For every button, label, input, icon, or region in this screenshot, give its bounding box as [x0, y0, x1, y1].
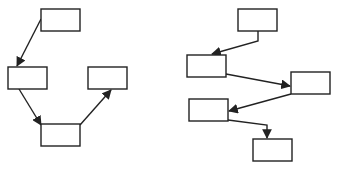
- box-rect: [88, 67, 127, 89]
- box-rect: [238, 9, 277, 31]
- box-node-I: [253, 139, 292, 161]
- box-node-B: [8, 67, 47, 89]
- box-node-A: [41, 9, 80, 31]
- edges-layer: [17, 19, 291, 138]
- box-rect: [291, 72, 330, 94]
- box-rect: [8, 67, 47, 89]
- box-rect: [41, 9, 80, 31]
- arrow-H-to-I: [228, 120, 267, 138]
- box-node-H: [189, 99, 228, 121]
- arrow-E-to-F: [212, 31, 258, 54]
- box-node-C: [88, 67, 127, 89]
- box-rect: [41, 124, 80, 146]
- box-node-D: [41, 124, 80, 146]
- arrow-D-to-C: [80, 90, 111, 125]
- diagram-left-nodes: [8, 9, 127, 146]
- box-rect: [189, 99, 228, 121]
- box-node-E: [238, 9, 277, 31]
- box-rect: [187, 55, 226, 77]
- arrow-G-to-H: [229, 94, 291, 111]
- arrow-B-to-D: [19, 89, 41, 125]
- box-node-F: [187, 55, 226, 77]
- box-rect: [253, 139, 292, 161]
- diagram-right-edges: [212, 31, 291, 138]
- diagram-canvas: [0, 0, 342, 174]
- arrow-A-to-B: [17, 19, 41, 66]
- arrow-F-to-G: [226, 74, 290, 86]
- box-node-G: [291, 72, 330, 94]
